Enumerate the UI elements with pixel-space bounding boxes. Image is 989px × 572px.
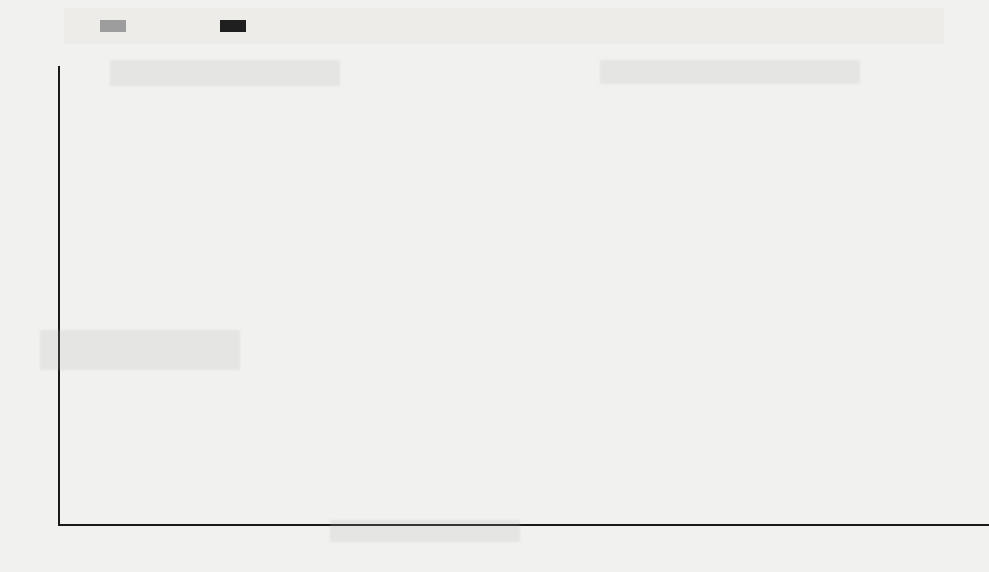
x-axis — [60, 526, 989, 572]
bar-series-container — [60, 66, 989, 524]
legend-swatch-partial — [100, 20, 126, 32]
chart-legend — [64, 8, 944, 44]
y-axis — [0, 52, 50, 524]
plot-area — [60, 66, 989, 524]
legend-swatch-central — [220, 20, 246, 32]
legend-item-central — [220, 20, 256, 32]
legend-item-partial — [100, 20, 136, 32]
chart-page — [0, 0, 989, 572]
chart-plot-wrapper — [0, 52, 989, 572]
